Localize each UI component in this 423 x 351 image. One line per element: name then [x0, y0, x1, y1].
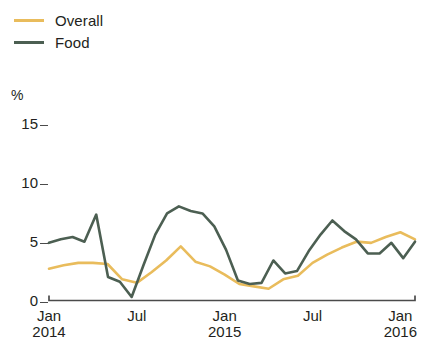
x-tick-month-3: Jul [278, 308, 348, 324]
chart-plot-area [0, 0, 423, 351]
y-tick-dash-5 [40, 243, 48, 244]
x-tick-label-3: Jul [278, 308, 348, 324]
x-tick-month-0: Jan [14, 308, 84, 324]
x-tick-month-1: Jul [102, 308, 172, 324]
x-tick-label-4: Jan2016 [365, 308, 423, 340]
x-tick-year-2: 2015 [190, 324, 260, 340]
x-tick-label-0: Jan2014 [14, 308, 84, 340]
y-tick-label-10: 10 [8, 175, 38, 190]
y-tick-dash-15 [40, 125, 48, 126]
y-tick-label-15: 15 [8, 116, 38, 131]
x-tick-month-2: Jan [190, 308, 260, 324]
y-tick-dash-10 [40, 184, 48, 185]
y-tick-dash-0 [40, 302, 48, 303]
x-tick-year-0: 2014 [14, 324, 84, 340]
chart-container: Overall Food % 151050 Jan2014JulJan2015J… [0, 0, 423, 351]
x-tick-year-4: 2016 [365, 324, 423, 340]
x-tick-month-4: Jan [365, 308, 423, 324]
x-axis-baseline [49, 296, 415, 301]
x-tick-label-1: Jul [102, 308, 172, 324]
y-tick-label-0: 0 [8, 293, 38, 308]
x-tick-label-2: Jan2015 [190, 308, 260, 340]
y-tick-label-5: 5 [8, 234, 38, 249]
series-line-food [49, 206, 415, 297]
